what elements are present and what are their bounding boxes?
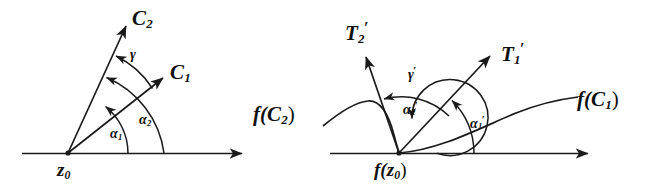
label-angle-gamma-prime-mark: ′ [413, 64, 416, 76]
label-image-curve-fC1-close: ) [612, 87, 619, 111]
label-curve-C2-sub: 2 [146, 16, 153, 31]
figure-drawing [0, 0, 651, 191]
label-angle-alpha2-sub: 2 [147, 118, 151, 128]
label-vertex-z0-sub: 0 [65, 169, 71, 182]
label-angle-alpha2: α2 [139, 113, 151, 128]
label-tangent-T2-prime: T2′ [345, 20, 369, 45]
label-curve-C2: C2 [132, 8, 153, 30]
label-tangent-T1-prime: T1′ [501, 41, 525, 66]
label-image-curve-fC1: f(C1) [577, 89, 619, 111]
label-angle-alpha2-prime-mark: ′ [415, 99, 418, 111]
label-curve-C1-sub: 1 [184, 70, 191, 85]
label-tangent-T2-prime-mark: ′ [364, 18, 369, 37]
label-curve-C1-base: C [170, 60, 184, 84]
label-tangent-T1-prime-mark: ′ [520, 39, 525, 58]
label-vertex-fz0-base: z [387, 159, 394, 180]
label-curve-C1: C1 [170, 62, 191, 84]
label-angle-gamma-base: γ [130, 47, 136, 62]
label-tangent-T1-prime-base: T [501, 42, 514, 66]
label-angle-alpha1-prime-mark: ′ [482, 113, 485, 125]
label-angle-alpha1-prime-base: α [470, 116, 478, 131]
label-angle-alpha2-base: α [139, 112, 147, 127]
label-vertex-fz0-close: ) [400, 159, 406, 180]
conformal-mapping-figure: C2 C1 γ α1 α2 z0 T2′ T1′ γ′ α2′ α1′ f(C1… [0, 0, 651, 191]
image-curve-fC2 [323, 101, 399, 153]
label-vertex-z0-base: z [57, 159, 64, 180]
label-angle-alpha2-prime-base: α [403, 102, 411, 117]
label-image-curve-fC2: f(C2) [253, 104, 295, 126]
label-vertex-z0: z0 [57, 160, 70, 181]
tangent-T2-prime-ray [366, 57, 399, 153]
left-diagram-group [22, 26, 242, 156]
label-angle-gamma-prime: γ′ [408, 65, 416, 82]
label-angle-alpha1: α1 [110, 127, 122, 142]
label-image-curve-fC2-open: f( [253, 102, 267, 126]
label-angle-alpha1-sub: 1 [118, 132, 122, 142]
label-image-curve-fC1-open: f( [577, 87, 591, 111]
label-angle-alpha1-prime: α1′ [470, 114, 485, 131]
label-vertex-fz0: f(z0) [374, 160, 406, 181]
label-tangent-T2-prime-base: T [345, 21, 358, 45]
label-vertex-fz0-open: f( [374, 159, 387, 180]
label-angle-alpha2-prime: α2′ [403, 100, 418, 117]
right-diagram-group [323, 56, 588, 156]
label-angle-alpha1-base: α [110, 126, 118, 141]
label-angle-gamma: γ [130, 48, 136, 62]
label-image-curve-fC2-close: ) [288, 102, 295, 126]
label-image-curve-fC1-base: C [591, 87, 605, 111]
label-image-curve-fC2-base: C [267, 102, 281, 126]
label-curve-C2-base: C [132, 6, 146, 30]
